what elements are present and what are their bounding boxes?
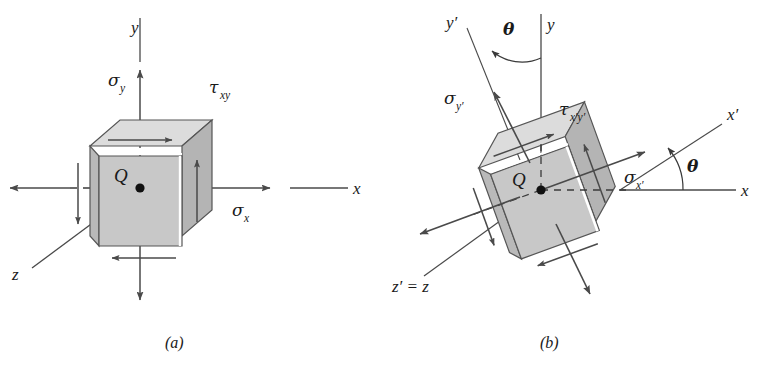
panel-a-sigma-y-label: σ y <box>108 70 126 95</box>
figure-canvas: y σ y σ x x z <box>0 0 772 367</box>
panel-b-axis-label-x: x <box>740 181 749 200</box>
sigma-y-symbol: σ <box>108 70 120 90</box>
panel-b-axis-label-y-prime: y′ <box>444 13 458 32</box>
panel-a-sigma-x-label: σ x <box>232 200 250 224</box>
sigma-x-symbol: σ <box>232 200 244 220</box>
panel-b: y y′ θ x x′ θ z′ = z <box>391 13 749 352</box>
panel-a-cube-front-face <box>99 156 182 246</box>
sigma-x-prime-symbol: σ <box>624 167 636 187</box>
panel-b-cube <box>470 102 628 262</box>
tau-xy-symbol: τ <box>209 77 219 97</box>
sigma-x-subscript: x <box>243 212 250 224</box>
tau-x-prime-y-prime-subscript: x′y′ <box>569 111 586 124</box>
stress-transformation-figure: y σ y σ x x z <box>0 0 772 367</box>
tau-xy-subscript: xy <box>219 89 231 102</box>
sigma-x-prime-subscript: x′ <box>635 179 644 191</box>
panel-a: y σ y σ x x z <box>10 18 361 352</box>
panel-a-cube-side-face <box>90 146 99 246</box>
panel-b-theta-arc-top <box>492 51 541 62</box>
panel-b-point-q-marker <box>536 185 545 194</box>
panel-b-caption: (b) <box>540 334 559 352</box>
panel-b-theta-label-right: θ <box>687 156 699 176</box>
sigma-y-subscript: y <box>119 82 126 95</box>
tau-x-prime-y-prime-symbol: τ <box>559 99 569 119</box>
panel-a-axis-label-z: z <box>11 265 19 284</box>
panel-b-sigma-y-prime-label: σ y′ <box>444 88 464 113</box>
panel-b-sigma-x-prime-label: σ x′ <box>624 167 644 191</box>
panel-a-tau-xy-label: τ xy <box>209 77 231 102</box>
panel-a-axis-label-y: y <box>129 18 139 37</box>
panel-a-axis-label-x: x <box>352 179 361 198</box>
panel-b-point-q-label: Q <box>512 169 526 190</box>
panel-b-axis-label-y: y <box>545 15 555 34</box>
panel-a-point-q-marker <box>135 183 144 192</box>
panel-a-caption: (a) <box>165 334 184 352</box>
panel-a-point-q-label: Q <box>114 165 128 186</box>
sigma-y-prime-subscript: y′ <box>455 100 464 113</box>
panel-b-axis-label-z-prime: z′ = z <box>391 277 429 296</box>
panel-b-axis-label-x-prime: x′ <box>726 105 739 124</box>
panel-b-theta-label-top: θ <box>503 19 515 39</box>
sigma-y-prime-symbol: σ <box>444 88 456 108</box>
